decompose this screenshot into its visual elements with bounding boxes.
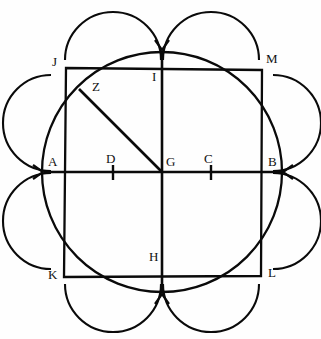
point-label-H: H [149,250,158,263]
point-label-G: G [166,155,175,168]
point-label-J: J [52,55,57,68]
arrow-top-icon [155,40,169,50]
arrow-bottom-icon [155,294,169,304]
geometry-figure: J M Z I A D G C B K H L [0,0,321,339]
point-label-M: M [266,52,278,65]
point-label-I: I [152,70,156,83]
point-label-Z: Z [92,80,100,93]
point-label-C: C [204,152,213,165]
point-label-A: A [48,155,57,168]
point-label-B: B [268,155,277,168]
arrow-right-icon [283,165,293,179]
point-label-K: K [48,268,57,281]
point-label-D: D [106,152,115,165]
chord-ZG [79,89,163,173]
point-label-L: L [268,266,276,279]
